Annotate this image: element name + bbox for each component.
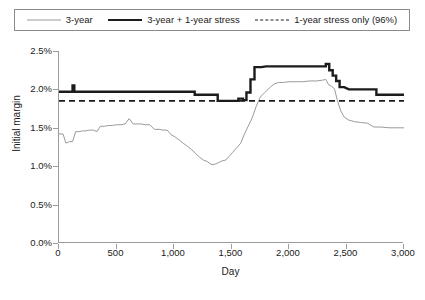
x-tick-mark [58, 244, 59, 249]
series-canvas [59, 51, 404, 243]
series-line [59, 64, 404, 101]
y-axis-title: Initial margin [11, 64, 22, 184]
dashed-swatch-icon [255, 17, 289, 24]
legend-label-3-year-plus-1-year-stress: 3-year + 1-year stress [147, 15, 240, 25]
x-tick-mark [173, 244, 174, 249]
plot-area [58, 51, 403, 243]
legend-item-3-year-plus-1-year-stress: 3-year + 1-year stress [108, 15, 240, 25]
y-tick-label: 0.0% [4, 238, 52, 248]
y-tick-mark [53, 205, 58, 206]
y-tick-mark [53, 89, 58, 90]
thick-solid-swatch-icon [108, 17, 142, 24]
x-tick-mark [116, 244, 117, 249]
legend-label-1-year-stress-only: 1-year stress only (96%) [294, 15, 397, 25]
x-tick-label: 1,000 [143, 248, 203, 258]
x-axis-title: Day [58, 266, 403, 277]
y-tick-mark [53, 51, 58, 52]
x-tick-label: 500 [86, 248, 146, 258]
x-tick-label: 1,500 [201, 248, 261, 258]
chart-legend: 3-year 3-year + 1-year stress 1-year str… [14, 9, 410, 31]
x-tick-mark [346, 244, 347, 249]
y-tick-label: 0.5% [4, 200, 52, 210]
chart-figure: 3-year 3-year + 1-year stress 1-year str… [0, 0, 425, 300]
x-tick-mark [403, 244, 404, 249]
legend-item-1-year-stress-only: 1-year stress only (96%) [255, 15, 397, 25]
y-tick-mark [53, 128, 58, 129]
y-tick-label: 2.5% [4, 46, 52, 56]
x-tick-label: 2,500 [316, 248, 376, 258]
x-tick-label: 0 [28, 248, 88, 258]
x-tick-label: 2,000 [258, 248, 318, 258]
y-tick-mark [53, 166, 58, 167]
legend-label-3-year: 3-year [66, 15, 93, 25]
x-tick-label: 3,000 [373, 248, 425, 258]
x-tick-mark [231, 244, 232, 249]
x-tick-mark [288, 244, 289, 249]
